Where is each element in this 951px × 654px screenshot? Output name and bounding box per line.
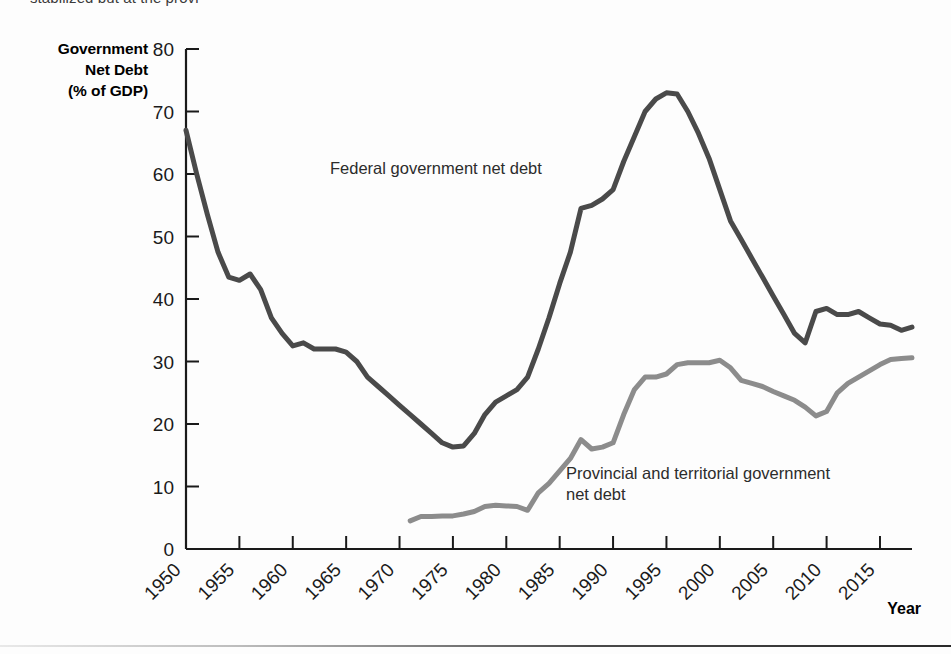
x-tick-label: 1960 xyxy=(247,559,292,604)
y-tick-label: 0 xyxy=(163,539,174,560)
y-tick-label: 40 xyxy=(153,289,174,310)
x-axis-title: Year xyxy=(887,600,921,618)
annotation-provincial-label: Provincial and territorial government ne… xyxy=(566,463,830,505)
page-bottom-rule xyxy=(0,645,951,647)
x-tick-label: 1965 xyxy=(300,559,345,604)
x-tick-label: 1975 xyxy=(407,559,452,604)
series-line xyxy=(186,93,912,447)
y-tick-label: 50 xyxy=(153,227,174,248)
y-tick-label: 60 xyxy=(153,164,174,185)
y-axis-ticks: 01020304050607080 xyxy=(153,39,199,560)
data-series-group xyxy=(186,93,912,521)
x-tick-label: 2000 xyxy=(674,559,719,604)
y-tick-label: 70 xyxy=(153,102,174,123)
x-tick-label: 1970 xyxy=(354,559,399,604)
x-tick-label: 1950 xyxy=(140,559,185,604)
y-tick-label: 80 xyxy=(153,39,174,60)
x-tick-label: 2005 xyxy=(727,559,772,604)
x-tick-label: 1980 xyxy=(460,559,505,604)
x-tick-label: 1985 xyxy=(514,559,559,604)
annotation-federal-label: Federal government net debt xyxy=(330,158,542,179)
y-tick-label: 10 xyxy=(153,477,174,498)
line-chart: 01020304050607080 1950195519601965197019… xyxy=(0,0,951,654)
x-tick-label: 1955 xyxy=(193,559,238,604)
x-tick-label: 1990 xyxy=(567,559,612,604)
chart-page: stabilized but at the provi Government N… xyxy=(0,0,951,654)
x-tick-label: 2010 xyxy=(781,559,826,604)
x-tick-label: 1995 xyxy=(621,559,666,604)
y-tick-label: 20 xyxy=(153,414,174,435)
x-tick-label: 2015 xyxy=(834,559,879,604)
y-tick-label: 30 xyxy=(153,352,174,373)
x-axis-ticks: 1950195519601965197019751980198519901995… xyxy=(140,536,880,604)
